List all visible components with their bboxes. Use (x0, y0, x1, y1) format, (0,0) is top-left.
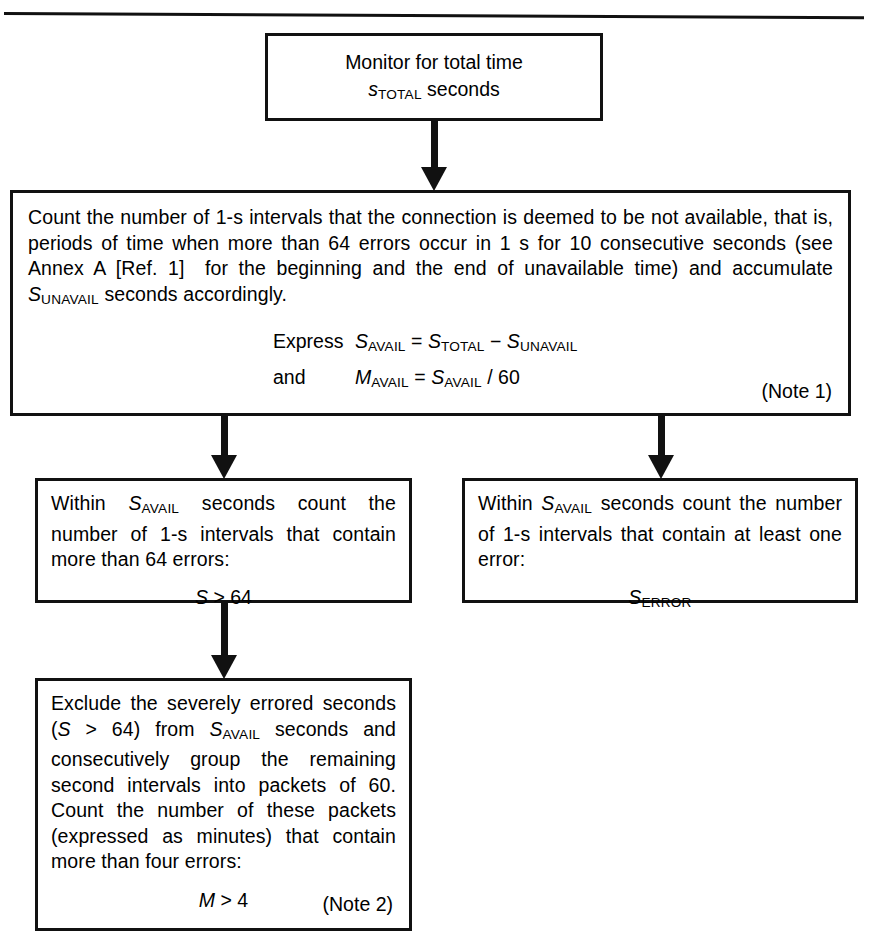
flow-box-errored-content: Within SAVAIL seconds count the number o… (465, 481, 855, 600)
count-eq-sign-2: = (414, 366, 425, 388)
count-var-s-unavail: S (28, 283, 41, 305)
count-eq-s-avail2: S (431, 366, 444, 388)
count-formulas: ExpressSAVAIL = STOTAL − SUNAVAIL andMAV… (28, 326, 833, 398)
minutes-sub-avail: AVAIL (223, 727, 261, 742)
minutes-var-s-2: S (209, 718, 222, 740)
monitor-sub-total: TOTAL (378, 87, 422, 102)
minutes-paragraph: Exclude the severely errored seconds (S … (51, 691, 396, 875)
errored-var-s: S (541, 492, 554, 514)
severe-var-s: S (128, 492, 141, 514)
errored-formula-sub: ERROR (641, 595, 691, 610)
count-note-label: (Note 1) (762, 380, 832, 403)
flow-box-errored-seconds: Within SAVAIL seconds count the number o… (462, 478, 858, 603)
monitor-line-2: sTOTAL seconds (368, 76, 500, 108)
count-formula-mavail: andMAVAIL = SAVAIL / 60 (273, 362, 833, 398)
count-sub-unavail: UNAVAIL (41, 292, 99, 307)
severe-formula-var: S (195, 586, 208, 608)
errored-formula: SERROR (478, 582, 842, 618)
arrow-head (421, 167, 447, 191)
severe-text-1: Within (51, 492, 128, 514)
arrow-shaft (221, 603, 228, 656)
count-eq-sub-unavail: UNAVAIL (520, 339, 578, 354)
count-minus-sign: − (490, 330, 501, 352)
errored-formula-var: S (628, 586, 641, 608)
monitor-line-1: Monitor for total time (345, 49, 523, 76)
errored-text-1: Within (478, 492, 541, 514)
flow-box-count-content: Count the number of 1-s intervals that t… (13, 193, 848, 413)
count-div-60: / 60 (487, 366, 520, 388)
flow-box-minutes-content: Exclude the severely errored seconds (S … (38, 681, 409, 928)
flow-box-count-unavailable: Count the number of 1-s intervals that t… (10, 190, 851, 416)
count-eq-sub-avail3: AVAIL (444, 375, 482, 390)
count-eq-s-avail: S (355, 330, 368, 352)
minutes-text-2: > 64) from (71, 718, 210, 740)
arrow-severe-to-minutes (211, 603, 237, 679)
minutes-var-s-1: S (58, 718, 71, 740)
count-express-word: Express (273, 326, 355, 362)
severe-sub-avail: AVAIL (142, 501, 180, 516)
count-eq-sub-total: TOTAL (441, 339, 485, 354)
minutes-formula-rest: > 4 (221, 889, 249, 911)
arrow-count-to-severe (211, 416, 237, 479)
arrow-head (211, 655, 237, 679)
count-eq-sign: = (411, 330, 422, 352)
count-text-2: seconds accordingly. (99, 283, 287, 305)
flow-box-severe-content: Within SAVAIL seconds count the number o… (38, 481, 409, 600)
flow-box-monitor-content: Monitor for total time sTOTAL seconds (268, 36, 600, 118)
arrow-monitor-to-count (421, 121, 447, 191)
count-text-1: Count the number of 1-s intervals that t… (28, 206, 833, 279)
arrow-shaft (431, 121, 438, 169)
monitor-word-seconds: seconds (427, 78, 500, 100)
count-eq-s-unavail: S (507, 330, 520, 352)
arrow-head (648, 455, 674, 479)
arrow-shaft (658, 416, 665, 456)
monitor-var-s: s (368, 78, 378, 100)
count-eq-sub-avail: AVAIL (368, 339, 406, 354)
count-eq-m-avail: M (355, 366, 371, 388)
flow-box-errored-minutes: Exclude the severely errored seconds (S … (35, 678, 412, 931)
flow-box-severely-errored-seconds: Within SAVAIL seconds count the number o… (35, 478, 412, 603)
arrow-head (211, 455, 237, 479)
errored-sub-avail: AVAIL (554, 501, 592, 516)
header-rule (4, 12, 864, 19)
errored-paragraph: Within SAVAIL seconds count the number o… (478, 491, 842, 573)
severe-paragraph: Within SAVAIL seconds count the number o… (51, 491, 396, 573)
flowchart-page: Monitor for total time sTOTAL seconds Co… (0, 0, 871, 943)
arrow-count-to-errored (648, 416, 674, 479)
count-eq-sub-avail2: AVAIL (371, 375, 409, 390)
count-formula-savail: ExpressSAVAIL = STOTAL − SUNAVAIL (273, 326, 833, 362)
count-paragraph: Count the number of 1-s intervals that t… (28, 205, 833, 312)
arrow-shaft (221, 416, 228, 456)
minutes-formula-var: M (199, 889, 215, 911)
flow-box-monitor: Monitor for total time sTOTAL seconds (265, 33, 603, 121)
count-and-word: and (273, 362, 355, 398)
count-eq-s-total: S (428, 330, 441, 352)
minutes-note-label: (Note 2) (323, 893, 393, 916)
